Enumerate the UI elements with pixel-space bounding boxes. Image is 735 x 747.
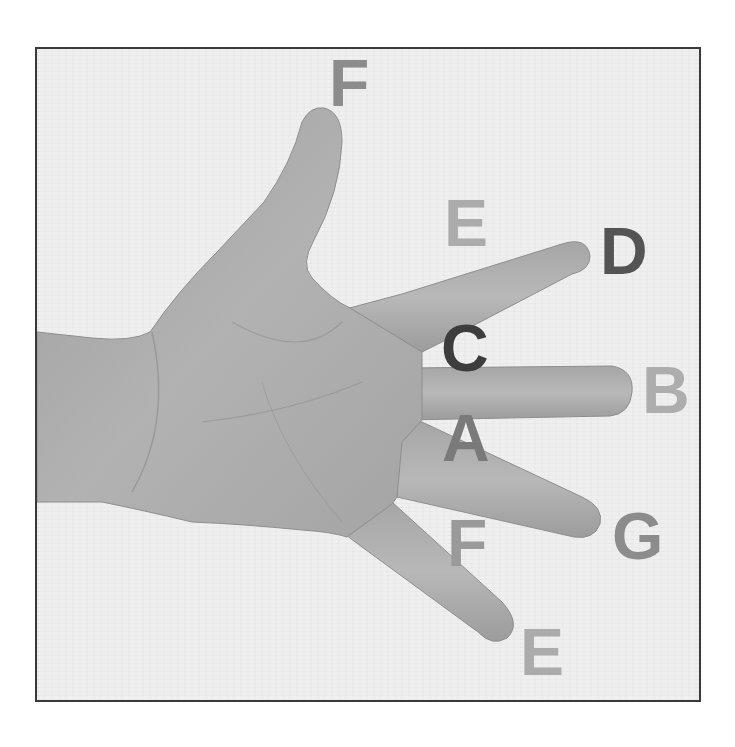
label-a: A	[442, 405, 490, 471]
label-f-bottom: F	[447, 510, 487, 576]
label-g: G	[612, 503, 663, 569]
label-b: B	[642, 357, 690, 423]
label-d: D	[600, 218, 648, 284]
hand-photo	[35, 47, 701, 702]
palm-and-thumb	[37, 108, 422, 537]
little-finger	[342, 502, 513, 641]
ring-finger	[397, 422, 601, 537]
label-f-top: F	[329, 50, 369, 116]
label-e-bottom: E	[520, 619, 564, 685]
label-c: C	[441, 315, 489, 381]
label-e-top: E	[444, 190, 488, 256]
figure-frame	[35, 47, 701, 702]
